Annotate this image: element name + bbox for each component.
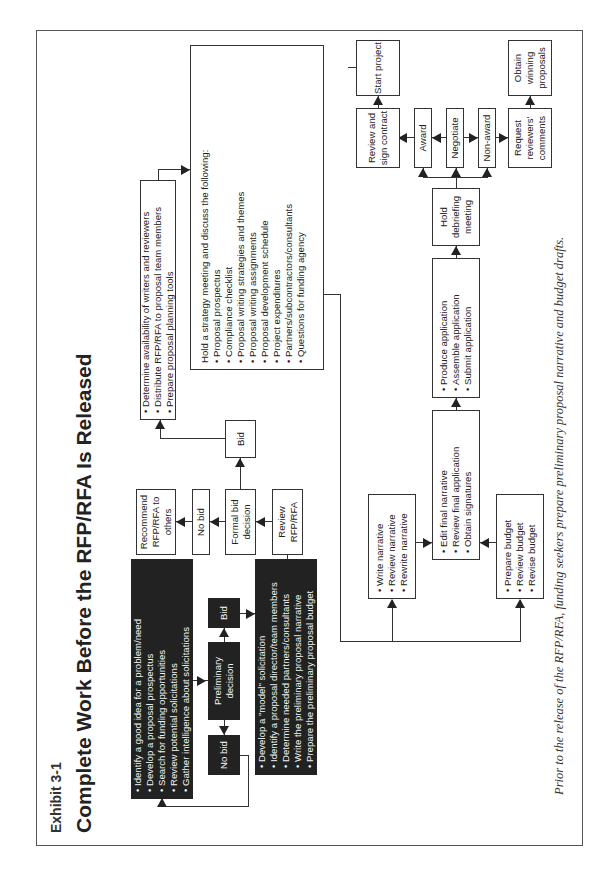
connector bbox=[348, 67, 356, 68]
diagram-canvas-upper bbox=[0, 0, 606, 895]
